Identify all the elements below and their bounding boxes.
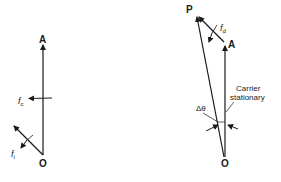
- left-phasor-diagram: A O fc fi: [11, 34, 52, 169]
- label-fd: fd: [220, 23, 226, 34]
- label-o-left: O: [39, 158, 47, 169]
- label-p: P: [186, 4, 193, 15]
- carrier-rotation-arrow: [29, 98, 52, 99]
- input-rotation-tick: [27, 135, 33, 140]
- carrier-leader-line: [226, 102, 234, 112]
- label-fc: fc: [18, 96, 24, 107]
- label-fi: fi: [11, 149, 15, 160]
- angle-arrow-right: [228, 125, 238, 129]
- input-rotation-arrow: [21, 140, 27, 148]
- angle-arrow-left: [206, 125, 218, 131]
- label-a-right: A: [228, 39, 235, 50]
- label-a-left: A: [39, 34, 46, 45]
- phasor-diagram: A O fc fi A O P fd Carrier stationary Δθ: [0, 0, 281, 182]
- carrier-stationary-label-1: Carrier: [236, 84, 261, 93]
- input-phasor: [14, 126, 43, 155]
- carrier-stationary-label-2: stationary: [230, 93, 265, 102]
- label-o-right: O: [221, 158, 229, 169]
- label-delta-theta: Δθ: [196, 104, 206, 113]
- right-phasor-diagram: A O P fd Carrier stationary Δθ: [186, 4, 265, 169]
- deviation-rotation-arrow: [209, 33, 212, 42]
